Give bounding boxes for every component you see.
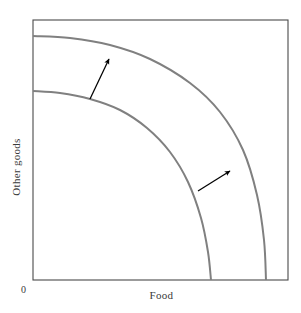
ppf-plot-area xyxy=(0,0,301,313)
ppf-figure: Other goods Food 0 xyxy=(0,0,301,313)
x-axis-label: Food xyxy=(0,289,301,301)
y-axis-label: Other goods xyxy=(10,102,24,232)
plot-frame xyxy=(33,20,288,280)
origin-label: 0 xyxy=(21,284,26,295)
